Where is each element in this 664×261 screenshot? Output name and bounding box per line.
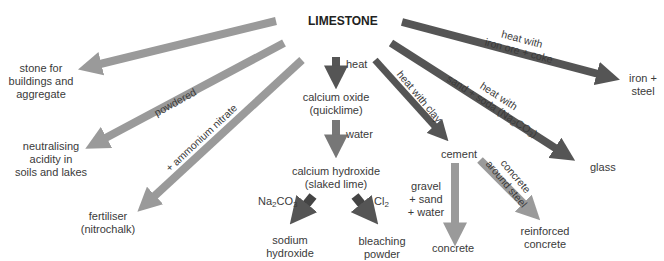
arrow-bleaching	[355, 196, 368, 212]
node-iron-steel: iron + steel	[626, 72, 660, 98]
label-na2co3: Na2CO3	[258, 195, 297, 208]
node-sodium-hydroxide: sodium hydroxide	[262, 234, 318, 260]
arrow-fertiliser	[148, 60, 302, 202]
node-calcium-oxide: calcium oxide (quicklime)	[296, 91, 376, 117]
node-cement: cement	[441, 148, 477, 161]
label-water: water	[346, 128, 373, 141]
node-reinforced-concrete: reinforced concrete	[520, 225, 570, 251]
node-concrete: concrete	[432, 242, 474, 255]
label-gravel: gravel + sand + water	[406, 180, 446, 219]
node-neutralising: neutralising acidity in soils and lakes	[14, 140, 88, 179]
node-bleaching-powder: bleaching powder	[356, 235, 408, 261]
node-calcium-hydroxide: calcium hydroxide (slaked lime)	[286, 165, 386, 191]
label-cl2: Cl2	[374, 195, 389, 208]
node-glass: glass	[590, 161, 616, 174]
limestone-title: LIMESTONE	[308, 14, 378, 28]
node-stone: stone for buildings and aggregate	[8, 62, 74, 101]
node-fertiliser: fertiliser (nitrochalk)	[78, 210, 138, 236]
label-heat: heat	[346, 58, 367, 71]
arrow-sodium-hydroxide	[300, 196, 313, 212]
